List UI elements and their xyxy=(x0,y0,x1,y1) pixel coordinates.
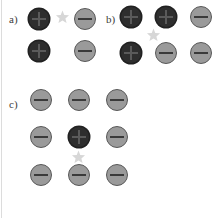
node-a-r1c2 xyxy=(74,8,96,30)
node-b-r1c3 xyxy=(190,6,212,28)
plus-icon-vertical xyxy=(165,10,167,24)
plus-icon-vertical xyxy=(130,46,132,60)
minus-icon xyxy=(78,50,92,52)
minus-icon xyxy=(110,136,124,138)
minus-icon xyxy=(159,52,173,54)
plus-icon-vertical xyxy=(130,10,132,24)
node-c-r2c3 xyxy=(106,126,128,148)
node-b-r2c1 xyxy=(120,42,142,64)
minus-icon xyxy=(72,174,86,176)
minus-icon xyxy=(110,174,124,176)
minus-icon xyxy=(72,99,86,101)
star-icon xyxy=(146,28,161,43)
panel-label-a: a) xyxy=(9,14,18,25)
node-c-r3c2 xyxy=(68,164,90,186)
node-c-r1c2 xyxy=(68,89,90,111)
plus-icon-vertical xyxy=(38,44,40,58)
node-a-r1c1 xyxy=(28,8,50,30)
node-b-r1c2 xyxy=(155,6,177,28)
minus-icon xyxy=(194,52,208,54)
star-icon xyxy=(71,150,86,165)
minus-icon xyxy=(78,18,92,20)
node-c-r3c1 xyxy=(30,164,52,186)
node-c-r1c1 xyxy=(30,89,52,111)
plus-icon-vertical xyxy=(38,12,40,26)
minus-icon xyxy=(34,99,48,101)
panel-label-b: b) xyxy=(106,14,115,25)
node-b-r2c3 xyxy=(190,42,212,64)
minus-icon xyxy=(194,16,208,18)
node-b-r2c2 xyxy=(155,42,177,64)
figure-canvas: a)b)c) xyxy=(0,0,222,218)
left-edge-rule xyxy=(1,0,2,218)
plus-icon-vertical xyxy=(78,130,80,144)
node-a-r2c1 xyxy=(28,40,50,62)
node-c-r1c3 xyxy=(106,89,128,111)
node-c-r2c1 xyxy=(30,126,52,148)
minus-icon xyxy=(34,136,48,138)
node-c-r3c3 xyxy=(106,164,128,186)
node-b-r1c1 xyxy=(120,6,142,28)
minus-icon xyxy=(34,174,48,176)
minus-icon xyxy=(110,99,124,101)
node-a-r2c2 xyxy=(74,40,96,62)
star-icon xyxy=(55,10,70,25)
panel-label-c: c) xyxy=(9,99,18,110)
node-c-r2c2 xyxy=(68,126,90,148)
